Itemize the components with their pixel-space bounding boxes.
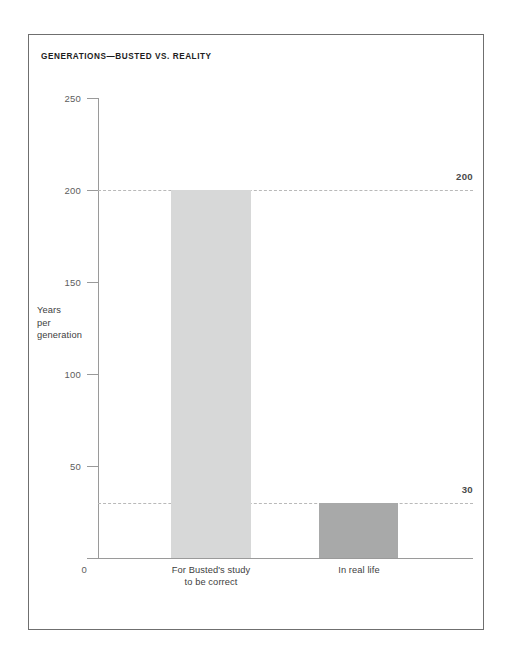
y-tick-mark-100 bbox=[87, 374, 98, 375]
chart-card: GENERATIONS—BUSTED VS. REALITY 250 200 1… bbox=[28, 34, 484, 630]
y-tick-label-150: 150 bbox=[65, 277, 81, 288]
reference-line-30 bbox=[98, 503, 473, 504]
y-tick-mark-50 bbox=[87, 466, 98, 467]
y-tick-mark-0 bbox=[87, 558, 98, 559]
y-axis-line bbox=[98, 98, 99, 558]
plot-area: 250 200 150 100 50 0 Years per generatio… bbox=[29, 35, 485, 631]
bar-for-busteds-study[interactable] bbox=[171, 190, 251, 558]
x-category-label-0-line-1: For Busted's study bbox=[151, 565, 271, 577]
x-category-label-1: In real life bbox=[299, 565, 419, 577]
y-tick-label-0: 0 bbox=[82, 564, 87, 575]
y-tick-label-50: 50 bbox=[70, 461, 81, 472]
x-category-label-0: For Busted's study to be correct bbox=[151, 565, 271, 588]
bar-in-real-life[interactable] bbox=[319, 503, 398, 558]
x-category-label-0-line-2: to be correct bbox=[151, 577, 271, 589]
reference-value-30: 30 bbox=[462, 484, 473, 495]
reference-line-200 bbox=[98, 190, 473, 191]
y-tick-mark-200 bbox=[87, 190, 98, 191]
y-axis-title: Years per generation bbox=[37, 304, 82, 342]
y-tick-label-200: 200 bbox=[65, 185, 81, 196]
x-axis-line bbox=[98, 558, 473, 559]
y-tick-mark-150 bbox=[87, 282, 98, 283]
reference-value-200: 200 bbox=[456, 171, 473, 182]
y-tick-mark-250 bbox=[87, 98, 98, 99]
x-category-label-1-line-1: In real life bbox=[299, 565, 419, 577]
y-tick-label-250: 250 bbox=[65, 93, 81, 104]
y-tick-label-100: 100 bbox=[65, 369, 81, 380]
